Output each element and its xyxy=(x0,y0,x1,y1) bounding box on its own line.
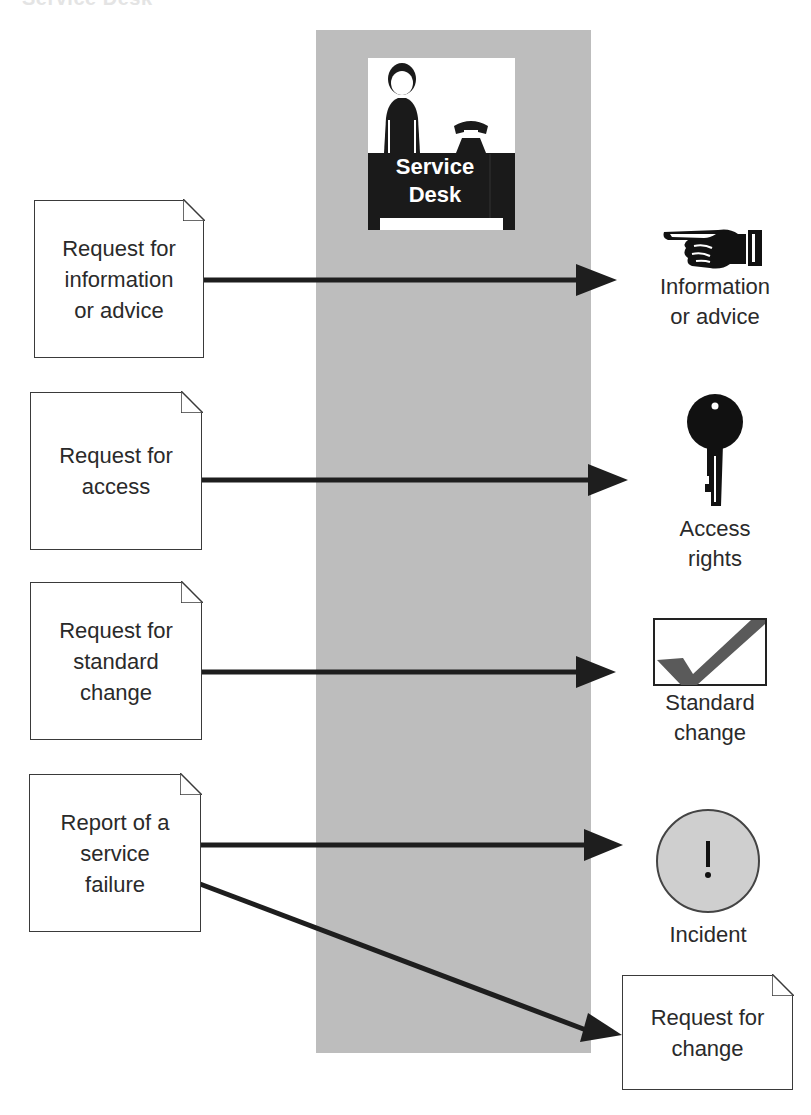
checkmark-box-icon xyxy=(653,618,767,686)
input-doc-service-failure-report: Report of a service failure xyxy=(29,774,201,932)
exclamation-circle-icon xyxy=(655,808,761,914)
arrowhead-icon xyxy=(584,829,623,861)
output-label: Information or advice xyxy=(645,272,785,332)
page-fold-icon xyxy=(772,974,794,996)
page-fold-icon xyxy=(183,199,205,221)
input-doc-information-request: Request for information or advice xyxy=(34,200,204,358)
output-information-or-advice: Information or advice xyxy=(645,224,785,332)
input-doc-standard-change-request: Request for standard change xyxy=(30,582,202,740)
pointing-hand-icon xyxy=(660,224,770,270)
output-doc-label: Request for change xyxy=(645,1002,771,1064)
output-label: Access rights xyxy=(640,514,790,574)
input-doc-label: Request for access xyxy=(53,440,179,502)
input-doc-access-request: Request for access xyxy=(30,392,202,550)
arrowhead-icon xyxy=(576,264,617,296)
arrowhead-icon xyxy=(576,656,616,688)
input-doc-label: Request for standard change xyxy=(53,615,179,708)
output-label: Incident xyxy=(648,920,768,950)
arrowhead-icon xyxy=(588,464,628,496)
key-icon xyxy=(685,392,745,510)
output-label: Standard change xyxy=(650,688,770,748)
output-incident: Incident xyxy=(648,808,768,950)
page-fold-icon xyxy=(180,773,202,795)
input-doc-label: Request for information or advice xyxy=(56,233,182,326)
output-access-rights: Access rights xyxy=(640,392,790,574)
input-doc-label: Report of a service failure xyxy=(55,807,176,900)
page-fold-icon xyxy=(181,391,203,413)
output-doc-request-for-change: Request for change xyxy=(622,975,793,1090)
arrowhead-icon xyxy=(580,1013,622,1042)
output-standard-change: Standard change xyxy=(650,618,770,748)
page-fold-icon xyxy=(181,581,203,603)
